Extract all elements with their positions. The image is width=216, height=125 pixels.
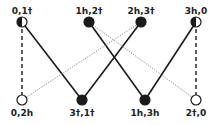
node-n2t0: 2†,0 — [186, 95, 206, 118]
edge-solid-n2h3t-n3t1t — [82, 22, 141, 100]
node-circle-full — [77, 95, 87, 105]
node-circle-full — [140, 95, 150, 105]
edge-dotted-n1h2t-n2t0 — [89, 22, 196, 100]
state-transition-diagram: 0,1†1h,2†2h,3†3h,00,2h3†,1†1h,3h2†,0 — [0, 0, 216, 125]
node-circle-full — [84, 17, 94, 27]
node-n3h0: 3h,0 — [185, 6, 207, 27]
node-label: 3h,0 — [185, 6, 207, 16]
node-n1h3h: 1h,3h — [131, 95, 160, 118]
node-label: 2†,0 — [186, 108, 206, 118]
node-n1h2t: 1h,2† — [76, 6, 103, 27]
edges-layer — [22, 22, 196, 100]
node-label: 3†,1† — [70, 108, 95, 118]
edge-solid-n3h0-n1h3h — [145, 22, 196, 100]
node-n01t: 0,1† — [12, 6, 33, 27]
edge-dotted-n02h-n2h3t — [22, 22, 141, 100]
node-label: 2h,3† — [128, 6, 155, 16]
node-label: 0,2h — [11, 108, 33, 118]
nodes-layer: 0,1†1h,2†2h,3†3h,00,2h3†,1†1h,3h2†,0 — [11, 6, 207, 118]
node-circle-open — [17, 95, 27, 105]
node-n02h: 0,2h — [11, 95, 33, 118]
edge-solid-n1h2t-n1h3h — [89, 22, 145, 100]
node-circle-full — [136, 17, 146, 27]
node-label: 0,1† — [12, 6, 33, 16]
node-label: 1h,2† — [76, 6, 103, 16]
node-label: 1h,3h — [131, 108, 160, 118]
node-n3t1t: 3†,1† — [70, 95, 95, 118]
edge-solid-n01t-n3t1t — [22, 22, 82, 100]
node-circle-open — [191, 95, 201, 105]
node-n2h3t: 2h,3† — [128, 6, 155, 27]
